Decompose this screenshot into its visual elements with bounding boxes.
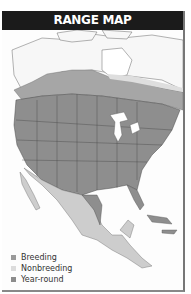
map-title: RANGE MAP	[2, 11, 183, 30]
legend-item-nonbreeding: Nonbreeding	[11, 263, 72, 274]
caribbean-islands	[147, 215, 177, 234]
legend-label: Year-round	[21, 275, 64, 284]
year-round-swatch-icon	[11, 277, 16, 282]
north-america-map	[2, 30, 183, 290]
map-legend: Breeding Nonbreeding Year-round	[11, 252, 72, 285]
legend-item-year-round: Year-round	[11, 274, 72, 285]
legend-item-breeding: Breeding	[11, 252, 72, 263]
range-map-panel: RANGE MAP	[2, 11, 185, 292]
legend-label: Nonbreeding	[21, 264, 72, 273]
nonbreeding-swatch-icon	[11, 266, 16, 271]
legend-label: Breeding	[21, 253, 57, 262]
breeding-swatch-icon	[11, 255, 16, 260]
